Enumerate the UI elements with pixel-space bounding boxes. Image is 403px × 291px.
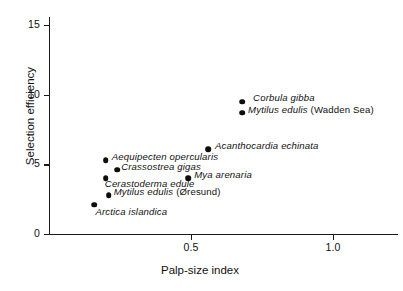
x-axis-tick: [191, 235, 192, 240]
data-point-label: Acanthocardia echinata: [215, 140, 319, 151]
data-point: [114, 167, 120, 173]
x-axis-line: [49, 234, 398, 235]
y-axis-tick: [44, 95, 49, 96]
y-axis-title: Selection efficiency: [24, 36, 36, 196]
data-point-label: Mytilus edulis (Øresund): [114, 186, 221, 197]
data-point: [106, 192, 112, 198]
x-axis-tick-label: 1.0: [313, 241, 353, 253]
y-axis-tick: [44, 164, 49, 165]
x-axis-title: Palp-size index: [120, 264, 280, 276]
y-axis-tick-label: 0: [14, 227, 40, 239]
scatter-plot-figure: 0510150.51.01.52.0 Selection efficiency …: [0, 0, 403, 291]
data-point: [239, 110, 245, 116]
data-point-label: Mya arenaria: [194, 169, 252, 180]
data-point-label: Arctica islandica: [95, 206, 167, 217]
x-axis-tick-label: 0.5: [171, 241, 211, 253]
y-axis-tick: [44, 234, 49, 235]
y-axis-line: [49, 17, 50, 235]
y-axis-tick-label: 15: [14, 18, 40, 30]
data-point-label: Corbula gibba: [253, 92, 315, 103]
data-point-label: Crassostrea gigas: [121, 161, 201, 172]
data-point: [103, 157, 109, 163]
data-point-label: Mytilus edulis (Wadden Sea): [248, 104, 374, 115]
y-axis-tick: [44, 25, 49, 26]
data-point: [239, 99, 245, 105]
x-axis-tick: [333, 235, 334, 240]
